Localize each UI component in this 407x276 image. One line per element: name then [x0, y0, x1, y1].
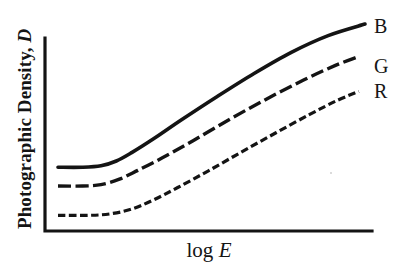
curve-red-layer — [58, 91, 359, 215]
scan-artifact-speck — [330, 172, 332, 174]
axis-spines — [45, 38, 372, 231]
y-axis-label-text: Photographic Density, — [14, 43, 35, 229]
x-axis-label-text: log — [187, 238, 219, 262]
y-axis-label: Photographic Density, D — [14, 33, 36, 229]
curve-label-red: R — [374, 81, 387, 101]
curve-label-green: G — [374, 56, 388, 76]
curves-group — [58, 24, 365, 215]
curve-blue-layer — [58, 24, 365, 167]
x-axis-label-symbol: E — [219, 238, 232, 262]
axis-spine-path — [45, 38, 372, 231]
curve-label-blue: B — [374, 16, 387, 36]
y-axis-label-symbol: D — [14, 29, 35, 43]
plot-area — [0, 0, 407, 276]
characteristic-curve-figure: Photographic Density, D log E B G R — [0, 0, 407, 276]
x-axis-label: log E — [44, 238, 374, 263]
